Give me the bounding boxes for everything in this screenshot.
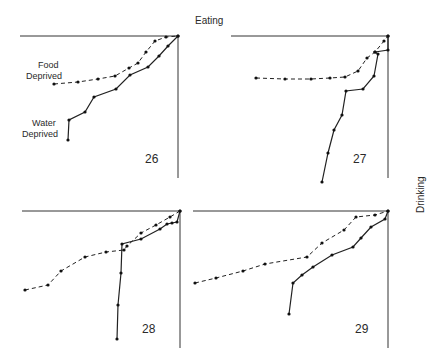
data-point: [66, 138, 69, 141]
data-point: [300, 273, 303, 276]
data-point: [386, 34, 389, 37]
data-point: [193, 281, 196, 284]
data-point: [214, 276, 217, 279]
data-point: [92, 95, 95, 98]
food-deprived-label-line2: Deprived: [26, 71, 62, 81]
data-point: [382, 39, 385, 42]
data-point: [83, 255, 86, 258]
data-point: [386, 209, 389, 212]
water-deprived-label-line2: Deprived: [22, 129, 58, 139]
data-point: [157, 54, 160, 57]
data-point: [136, 61, 139, 64]
food-deprived-line: [25, 211, 180, 290]
data-point: [178, 209, 181, 212]
data-point: [146, 65, 149, 68]
data-point: [332, 128, 335, 131]
food-deprived-line: [195, 211, 388, 283]
data-point: [83, 110, 86, 113]
data-point: [116, 303, 119, 306]
data-point: [330, 253, 333, 256]
data-point: [373, 213, 376, 216]
water-deprived-label-line1: Water: [32, 118, 56, 128]
data-point: [165, 222, 168, 225]
data-point: [386, 48, 389, 51]
data-point: [354, 215, 357, 218]
food-deprived-label-line1: Food: [38, 60, 59, 70]
data-point: [154, 223, 157, 226]
data-point: [311, 265, 314, 268]
data-point: [168, 215, 171, 218]
panel-28-number: 28: [142, 322, 156, 336]
data-point: [320, 180, 323, 183]
data-point: [128, 73, 131, 76]
data-point: [113, 74, 116, 77]
data-point: [175, 220, 178, 223]
data-point: [114, 87, 117, 90]
data-point: [376, 52, 379, 55]
data-point: [291, 281, 294, 284]
data-point: [46, 283, 49, 286]
data-point: [373, 50, 376, 53]
panel-27-number: 27: [353, 152, 367, 166]
data-point: [120, 242, 123, 245]
data-point: [356, 69, 359, 72]
data-point: [122, 248, 125, 251]
data-point: [127, 66, 130, 69]
panel-26-number: 26: [145, 152, 159, 166]
data-point: [309, 77, 312, 80]
data-point: [342, 228, 345, 231]
water-deprived-line: [289, 211, 388, 314]
data-point: [139, 237, 142, 240]
data-point: [170, 221, 173, 224]
data-point: [340, 113, 343, 116]
data-point: [176, 34, 179, 37]
data-point: [344, 89, 347, 92]
data-point: [359, 236, 362, 239]
data-point: [166, 44, 169, 47]
data-point: [153, 39, 156, 42]
data-point: [320, 241, 323, 244]
panel-29-number: 29: [355, 322, 369, 336]
data-point: [305, 255, 308, 258]
data-point: [326, 151, 329, 154]
data-point: [67, 118, 70, 121]
data-point: [372, 74, 375, 77]
data-point: [263, 262, 266, 265]
data-point: [365, 56, 368, 59]
data-point: [254, 76, 257, 79]
data-point: [351, 245, 354, 248]
data-point: [139, 231, 142, 234]
data-point: [125, 244, 128, 247]
data-point: [158, 227, 161, 230]
data-point: [104, 250, 107, 253]
data-point: [96, 77, 99, 80]
data-point: [52, 82, 55, 85]
panel-28: [22, 209, 182, 348]
data-point: [361, 87, 364, 90]
data-point: [23, 288, 26, 291]
eating-axis-label: Eating: [195, 15, 223, 26]
data-point: [119, 271, 122, 274]
panels: [20, 34, 390, 348]
data-point: [76, 80, 79, 83]
data-point: [287, 312, 290, 315]
data-point: [343, 75, 346, 78]
data-point: [283, 77, 286, 80]
figure-canvas: Eating Drinking Food Deprived Water Depr…: [0, 0, 432, 362]
water-deprived-line: [117, 211, 180, 339]
data-point: [144, 50, 147, 53]
data-point: [328, 76, 331, 79]
data-point: [383, 217, 386, 220]
data-point: [164, 35, 167, 38]
data-point: [115, 337, 118, 340]
data-point: [241, 269, 244, 272]
data-point: [369, 225, 372, 228]
drinking-axis-label: Drinking: [415, 176, 426, 213]
water-deprived-line: [68, 36, 178, 140]
data-point: [59, 269, 62, 272]
